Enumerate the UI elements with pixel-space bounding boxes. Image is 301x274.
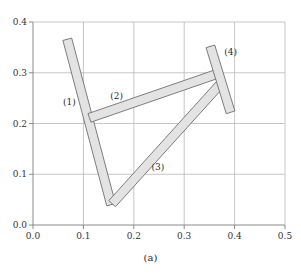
figure-panel: 0.00.10.20.30.4 0.00.10.20.30.40.5 (1)(2… [0, 0, 301, 274]
y-tick-label: 0.4 [13, 17, 27, 27]
y-tick-label: 0.1 [13, 169, 27, 179]
x-tick-label: 0.0 [26, 231, 40, 241]
x-tick-label: 0.3 [177, 231, 191, 241]
x-tick-label: 0.4 [227, 231, 241, 241]
link-bar-1 [63, 38, 116, 206]
y-tick-label: 0.3 [13, 68, 27, 78]
x-tick-label: 0.5 [278, 231, 292, 241]
link-label-4: (4) [224, 47, 237, 57]
link-label-2: (2) [110, 91, 123, 101]
y-tick-label: 0.0 [13, 220, 27, 230]
link-label-1: (1) [63, 97, 76, 107]
x-tick-label: 0.2 [127, 231, 141, 241]
link-bar-3 [109, 81, 224, 207]
x-tick-label: 0.1 [76, 231, 90, 241]
linkage-plot [0, 0, 301, 274]
y-tick-label: 0.2 [13, 119, 27, 129]
figure-caption: (a) [0, 252, 301, 263]
link-label-3: (3) [152, 162, 165, 172]
linkage-bars [63, 38, 235, 207]
